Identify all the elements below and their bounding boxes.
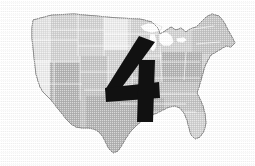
region-mid-atlantic — [162, 52, 202, 82]
region-shading-group — [28, 10, 238, 160]
region-northern-plains — [78, 10, 104, 56]
us-map-figure: 4 — [0, 0, 255, 166]
region-northern-rockies — [50, 10, 78, 62]
region-mountain-southwest — [50, 62, 80, 160]
us-choropleth-map — [0, 0, 255, 166]
region-upper-midwest — [104, 10, 130, 50]
